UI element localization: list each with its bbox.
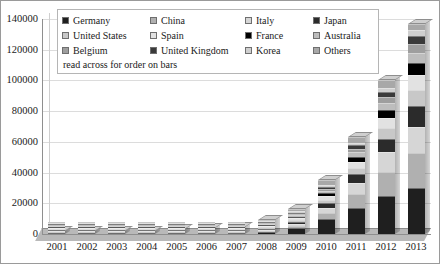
bar-segment[interactable] [138,222,155,223]
bar-segment[interactable] [318,200,335,204]
bar-segment[interactable] [258,226,275,227]
legend-item[interactable]: France [245,31,313,41]
bar-segment[interactable] [138,224,155,225]
bar-segment[interactable] [198,226,215,227]
bar-segment[interactable] [168,225,185,226]
bar-segment[interactable] [288,224,305,226]
bar-segment[interactable] [288,213,305,214]
bar-segment[interactable] [168,231,185,232]
bar-segment[interactable] [198,229,215,230]
legend-item[interactable]: Australia [313,31,373,41]
bar-segment[interactable] [348,149,365,153]
stacked-bar[interactable] [228,227,245,234]
bar-segment[interactable] [138,228,155,229]
bar-segment[interactable] [168,222,185,223]
bar-segment[interactable] [78,223,95,224]
bar-segment[interactable] [48,227,65,228]
bar-segment[interactable] [318,180,335,185]
bar-segment[interactable] [378,103,395,110]
bar-segment[interactable] [348,137,365,143]
bar-segment[interactable] [408,30,425,37]
bar-segment[interactable] [288,218,305,220]
bar-segment[interactable] [378,118,395,128]
bar-segment[interactable] [348,143,365,146]
stacked-bar[interactable] [288,209,305,234]
bar-segment[interactable] [378,92,395,97]
bar-segment[interactable] [408,63,425,75]
bar-segment[interactable] [198,232,215,233]
bar-segment[interactable] [228,231,245,232]
bar-segment[interactable] [198,233,215,234]
bar-segment[interactable] [408,44,425,53]
bar-segment[interactable] [408,75,425,90]
bar-segment[interactable] [78,228,95,229]
bar-segment[interactable] [138,231,155,232]
bar-segment[interactable] [168,224,185,225]
bar-segment[interactable] [228,226,245,227]
bar-segment[interactable] [168,228,185,229]
bar-segment[interactable] [168,232,185,233]
bar-segment[interactable] [228,227,245,228]
bar-segment[interactable] [288,228,305,234]
bar-segment[interactable] [78,230,95,231]
bar-segment[interactable] [408,24,425,30]
bar-segment[interactable] [138,233,155,234]
bar-segment[interactable] [228,232,245,233]
bar-segment[interactable] [318,213,335,219]
bar-segment[interactable] [108,229,125,230]
bar-segment[interactable] [318,193,335,196]
bar-segment[interactable] [48,228,65,229]
bar-segment[interactable] [378,196,395,234]
bar-segment[interactable] [408,106,425,127]
bar-segment[interactable] [228,233,245,234]
legend-item[interactable]: China [150,16,245,26]
bar-segment[interactable] [258,231,275,232]
bar-segment[interactable] [258,230,275,231]
bar-segment[interactable] [48,226,65,227]
bar-segment[interactable] [258,222,275,223]
stacked-bar[interactable] [348,137,365,234]
bar-segment[interactable] [108,228,125,229]
bar-segment[interactable] [348,145,365,148]
bar-segment[interactable] [258,225,275,226]
bar-segment[interactable] [48,222,65,223]
bar-segment[interactable] [168,230,185,231]
bar-segment[interactable] [348,162,365,168]
legend-item[interactable]: Korea [245,46,313,56]
bar-segment[interactable] [78,224,95,225]
bar-segment[interactable] [198,227,215,228]
bar-segment[interactable] [138,229,155,230]
bar-segment[interactable] [108,232,125,233]
bar-segment[interactable] [288,217,305,219]
bar-segment[interactable] [378,88,395,92]
bar-segment[interactable] [378,110,395,118]
bar-segment[interactable] [78,229,95,230]
stacked-bar[interactable] [318,180,335,234]
bar-segment[interactable] [108,231,125,232]
bar-segment[interactable] [138,227,155,228]
bar-segment[interactable] [108,224,125,225]
bar-segment[interactable] [48,223,65,224]
bar-segment[interactable] [288,226,305,228]
bar-segment[interactable] [318,219,335,234]
bar-segment[interactable] [228,229,245,230]
bar-segment[interactable] [408,53,425,63]
bar-segment[interactable] [318,208,335,213]
bar-segment[interactable] [78,232,95,233]
bar-segment[interactable] [288,211,305,212]
bar-segment[interactable] [138,223,155,224]
bar-segment[interactable] [78,226,95,227]
bar-segment[interactable] [168,233,185,234]
bar-segment[interactable] [168,229,185,230]
legend-item[interactable]: United Kingdom [150,46,245,56]
bar-segment[interactable] [108,227,125,228]
bar-segment[interactable] [408,127,425,153]
legend-item[interactable]: United States [62,31,150,41]
bar-segment[interactable] [198,222,215,223]
bar-segment[interactable] [228,223,245,224]
bar-segment[interactable] [258,232,275,234]
bar-segment[interactable] [198,228,215,229]
bar-segment[interactable] [318,185,335,187]
legend-item[interactable]: Germany [62,16,150,26]
bar-segment[interactable] [408,188,425,234]
